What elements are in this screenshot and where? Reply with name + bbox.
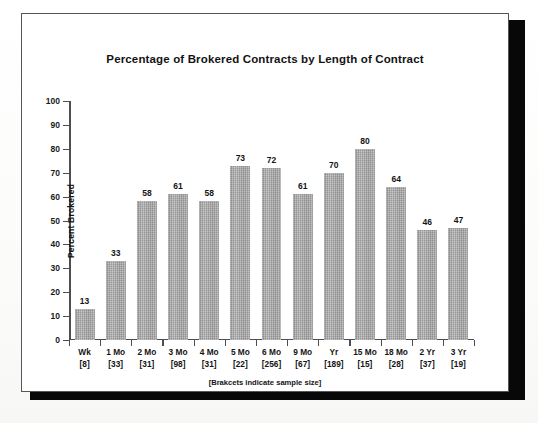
x-tick: [256, 340, 257, 346]
x-category-label: 6 Mo[256]: [256, 347, 287, 370]
x-tick: [412, 340, 413, 346]
x-tick: [225, 340, 226, 346]
x-category-term: 2 Mo: [131, 347, 162, 359]
x-category-term: 4 Mo: [194, 347, 225, 359]
bar-slot: 13: [69, 101, 100, 340]
x-tick: [162, 340, 163, 346]
y-tick-label: 20: [51, 287, 60, 297]
x-category-term: 1 Mo: [100, 347, 131, 359]
bar-slot: 47: [443, 101, 474, 340]
x-category-label: Yr[189]: [318, 347, 349, 370]
x-axis-category-labels: Wk[8]1 Mo[33]2 Mo[31]3 Mo[98]4 Mo[31]5 M…: [69, 347, 474, 370]
bar-value-label: 70: [329, 160, 338, 170]
y-tick-label: 50: [51, 216, 60, 226]
bar-value-label: 47: [454, 215, 463, 225]
y-tick-label: 60: [51, 192, 60, 202]
x-category-term: 15 Mo: [349, 347, 380, 359]
x-category-term: 3 Mo: [162, 347, 193, 359]
bar-slot: 80: [349, 101, 380, 340]
y-tick-label: 90: [51, 120, 60, 130]
bar-slot: 61: [162, 101, 193, 340]
bar: 47: [448, 228, 468, 340]
x-category-label: Wk[8]: [69, 347, 100, 370]
y-tick-label: 10: [51, 311, 60, 321]
chart-frame: Percentage of Brokered Contracts by Leng…: [21, 13, 509, 392]
bar: 58: [199, 201, 219, 340]
bar-value-label: 72: [267, 155, 276, 165]
bars-layer: 13335861587372617080644647: [69, 101, 474, 340]
bar: 33: [106, 261, 126, 340]
x-category-sample-size: [98]: [162, 359, 193, 371]
bar-slot: 61: [287, 101, 318, 340]
x-category-sample-size: [189]: [318, 359, 349, 371]
x-category-label: 5 Mo[22]: [225, 347, 256, 370]
x-tick: [69, 340, 70, 346]
y-tick-label: 40: [51, 239, 60, 249]
chart-title: Percentage of Brokered Contracts by Leng…: [22, 53, 508, 65]
bar-value-label: 80: [360, 136, 369, 146]
x-category-label: 2 Mo[31]: [131, 347, 162, 370]
y-tick-label: 0: [55, 335, 60, 345]
x-category-label: 3 Mo[98]: [162, 347, 193, 370]
x-category-label: 15 Mo[15]: [349, 347, 380, 370]
y-tick-label: 100: [46, 96, 60, 106]
bar: 46: [417, 230, 437, 340]
x-tick: [381, 340, 382, 346]
bar-value-label: 61: [173, 181, 182, 191]
x-category-term: 3 Yr: [443, 347, 474, 359]
x-category-label: 2 Yr[37]: [412, 347, 443, 370]
bar-slot: 46: [412, 101, 443, 340]
x-category-sample-size: [31]: [194, 359, 225, 371]
x-tick: [100, 340, 101, 346]
bar-value-label: 13: [80, 296, 89, 306]
x-tick: [131, 340, 132, 346]
bar: 13: [75, 309, 95, 340]
y-tick-label: 80: [51, 144, 60, 154]
plot-area: Percent Brokered 1009080706050403020100 …: [69, 101, 474, 340]
x-category-term: Yr: [318, 347, 349, 359]
x-category-term: 18 Mo: [381, 347, 412, 359]
x-tick: [474, 340, 475, 346]
bar-value-label: 33: [111, 248, 120, 258]
x-tick: [194, 340, 195, 346]
bar-slot: 70: [318, 101, 349, 340]
x-category-sample-size: [8]: [69, 359, 100, 371]
bar: 64: [386, 187, 406, 340]
x-category-term: 6 Mo: [256, 347, 287, 359]
bar: 70: [324, 173, 344, 340]
x-category-term: 5 Mo: [225, 347, 256, 359]
bar-slot: 73: [225, 101, 256, 340]
x-axis-footnote: [Brakcets indicate sample size]: [22, 378, 508, 387]
x-tick: [287, 340, 288, 346]
bar-value-label: 46: [423, 217, 432, 227]
x-category-sample-size: [256]: [256, 359, 287, 371]
x-category-sample-size: [67]: [287, 359, 318, 371]
bar-slot: 64: [381, 101, 412, 340]
bar-value-label: 58: [204, 188, 213, 198]
x-axis-ticks: [69, 340, 474, 346]
bar: 73: [230, 166, 250, 340]
x-tick: [318, 340, 319, 346]
bar: 80: [355, 149, 375, 340]
x-category-label: 3 Yr[19]: [443, 347, 474, 370]
bar-value-label: 61: [298, 181, 307, 191]
bar: 61: [293, 194, 313, 340]
bar-slot: 72: [256, 101, 287, 340]
bar-value-label: 58: [142, 188, 151, 198]
x-category-term: 9 Mo: [287, 347, 318, 359]
x-category-sample-size: [37]: [412, 359, 443, 371]
bar-slot: 58: [131, 101, 162, 340]
x-category-sample-size: [15]: [349, 359, 380, 371]
bar-slot: 33: [100, 101, 131, 340]
x-category-term: 2 Yr: [412, 347, 443, 359]
bar-slot: 58: [194, 101, 225, 340]
x-category-sample-size: [28]: [381, 359, 412, 371]
x-category-label: 1 Mo[33]: [100, 347, 131, 370]
x-tick: [349, 340, 350, 346]
x-category-label: 18 Mo[28]: [381, 347, 412, 370]
bar: 72: [262, 168, 282, 340]
x-category-sample-size: [31]: [131, 359, 162, 371]
x-category-label: 4 Mo[31]: [194, 347, 225, 370]
x-category-sample-size: [33]: [100, 359, 131, 371]
x-category-label: 9 Mo[67]: [287, 347, 318, 370]
